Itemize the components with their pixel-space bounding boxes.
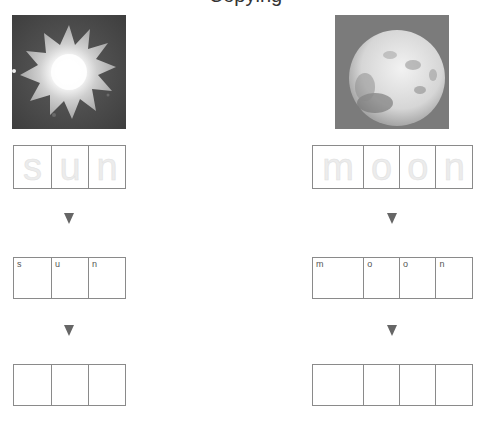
sun-trace-row: s u n: [13, 145, 126, 189]
write-cell[interactable]: [14, 365, 51, 405]
down-triangle-icon: [387, 325, 397, 336]
trace-cell[interactable]: n: [88, 146, 125, 188]
down-triangle-icon: [64, 325, 74, 336]
copy-cell[interactable]: o: [399, 258, 436, 298]
copy-cell[interactable]: n: [435, 258, 472, 298]
letter-label: n: [92, 259, 97, 269]
write-cell[interactable]: [363, 365, 399, 405]
trace-cell[interactable]: o: [363, 146, 399, 188]
down-triangle-icon: [64, 213, 74, 224]
letter-label: s: [17, 259, 22, 269]
moon-image: [335, 15, 449, 129]
write-cell[interactable]: [88, 365, 125, 405]
trace-letter: o: [364, 146, 399, 188]
copy-cell[interactable]: u: [51, 258, 88, 298]
write-cell[interactable]: [313, 365, 363, 405]
trace-letter: n: [89, 146, 125, 188]
letter-label: m: [316, 259, 324, 269]
trace-letter: s: [14, 146, 51, 188]
page-title: Copying: [0, 0, 491, 5]
sun-write-row: [13, 364, 126, 406]
sun-image: [12, 15, 126, 129]
moon-trace-row: m o o n: [312, 145, 473, 189]
sun-copy-row: s u n: [13, 257, 126, 299]
sun-icon: [12, 15, 126, 129]
trace-letter: m: [313, 146, 363, 188]
copy-cell[interactable]: n: [88, 258, 125, 298]
moon-copy-row: m o o n: [312, 257, 473, 299]
moon-write-row: [312, 364, 473, 406]
write-cell[interactable]: [51, 365, 88, 405]
trace-letter: u: [52, 146, 88, 188]
write-cell[interactable]: [435, 365, 472, 405]
copy-cell[interactable]: s: [14, 258, 51, 298]
trace-letter: n: [436, 146, 472, 188]
trace-cell[interactable]: n: [435, 146, 472, 188]
trace-cell[interactable]: s: [14, 146, 51, 188]
trace-letter: o: [400, 146, 436, 188]
letter-label: n: [439, 259, 444, 269]
down-triangle-icon: [387, 213, 397, 224]
letter-label: u: [55, 259, 60, 269]
write-cell[interactable]: [399, 365, 436, 405]
trace-cell[interactable]: m: [313, 146, 363, 188]
copy-cell[interactable]: o: [363, 258, 399, 298]
letter-label: o: [367, 259, 372, 269]
trace-cell[interactable]: u: [51, 146, 88, 188]
letter-label: o: [403, 259, 408, 269]
copy-cell[interactable]: m: [313, 258, 363, 298]
trace-cell[interactable]: o: [399, 146, 436, 188]
moon-icon: [335, 15, 449, 129]
